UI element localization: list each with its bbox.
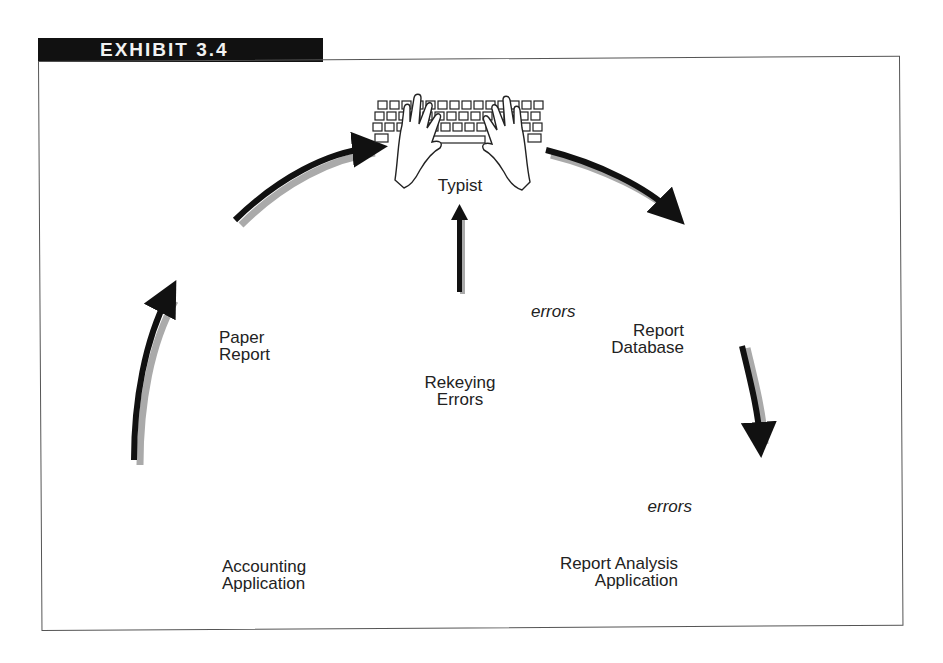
typist-label: Typist xyxy=(420,177,500,194)
report-analysis-label-line1: Report Analysis xyxy=(520,555,678,572)
rekeying-errors-label-line2: Errors xyxy=(400,391,520,408)
paper-report-label-line1: Paper xyxy=(219,329,264,346)
accounting-application-label-line2: Application xyxy=(222,575,305,592)
rekeying-errors-annotation: errors xyxy=(531,303,575,320)
report-analysis-label-line2: Application xyxy=(520,572,678,589)
arrow-paper-to-typist xyxy=(235,148,375,225)
arrow-rekeying-to-typist xyxy=(451,204,468,294)
report-analysis-errors-annotation: errors xyxy=(610,498,692,515)
report-database-label-line1: Report xyxy=(580,322,684,339)
arrow-database-to-analysis xyxy=(742,346,765,444)
report-database-label-line2: Database xyxy=(580,339,684,356)
arrow-accounting-to-paper xyxy=(134,296,175,465)
accounting-application-label-line1: Accounting xyxy=(222,558,306,575)
flow-diagram xyxy=(0,0,943,663)
paper-report-label-line2: Report xyxy=(219,346,270,363)
rekeying-errors-label-line1: Rekeying xyxy=(400,374,520,391)
arrow-typist-to-database xyxy=(546,150,678,217)
